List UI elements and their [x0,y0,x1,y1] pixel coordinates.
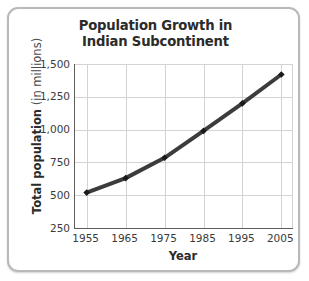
chart-title: Population Growth in Indian Subcontinent [29,18,282,49]
x-axis-tick-labels: 195519651975198519952005 [74,232,292,246]
x-axis-title: Year [74,249,292,263]
plot-area [74,64,293,229]
data-series-line [75,64,293,228]
series-polyline [87,75,282,193]
x-axis-tick-label: 2005 [257,232,303,244]
y-axis-title: Total population (in millions) [30,36,44,216]
chart-title-line-2: Indian Subcontinent [29,34,282,50]
y-axis-title-light: (in millions) [30,38,44,109]
chart-title-line-1: Population Growth in [29,18,282,34]
y-axis-title-strong: Total population [30,109,44,214]
chart-frame: Population Growth in Indian Subcontinent… [7,7,300,272]
